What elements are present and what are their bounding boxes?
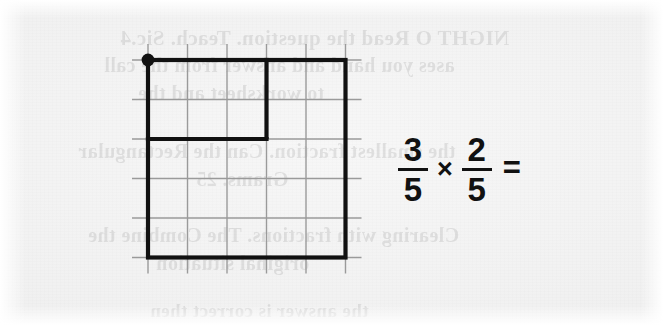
worksheet-page: NIGHT O Read the question. Teach. Sic.4a… (0, 0, 663, 325)
first-fraction-numerator: 3 (400, 133, 426, 166)
corner-dot-icon (142, 54, 155, 67)
first-fraction-denominator: 5 (400, 173, 426, 206)
multiplication-operator: × (437, 156, 453, 183)
bold-outer-square (148, 60, 346, 258)
bold-outline-group (146, 58, 346, 258)
second-fraction: 2 5 (462, 133, 492, 206)
faint-grid-lines (132, 44, 362, 274)
fraction-area-model-diagram (0, 0, 663, 325)
second-fraction-numerator: 2 (464, 133, 490, 166)
equals-sign: = (503, 152, 521, 183)
fraction-multiplication-expression: 3 5 × 2 5 = (398, 133, 521, 206)
second-fraction-denominator: 5 (464, 173, 490, 206)
first-fraction: 3 5 (398, 133, 428, 206)
